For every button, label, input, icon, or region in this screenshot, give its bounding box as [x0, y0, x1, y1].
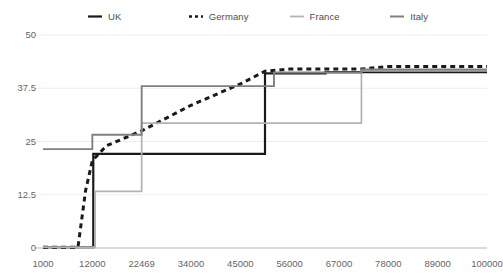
x-tick-label: 78000 — [375, 258, 401, 269]
y-axis: 012.52537.550 — [0, 0, 36, 277]
y-tick-label: 0 — [2, 243, 36, 253]
series-lines — [43, 67, 487, 248]
x-tick-label: 45000 — [227, 258, 253, 269]
y-tick-label: 12.5 — [2, 190, 36, 200]
x-tick-label: 1000 — [32, 258, 53, 269]
y-tick-label: 50 — [2, 30, 36, 40]
y-tick-label: 25 — [2, 137, 36, 147]
x-tick-label: 56000 — [276, 258, 302, 269]
x-axis: 1000120002246934000450005600067000780008… — [0, 256, 491, 274]
x-tick-label: 89000 — [424, 258, 450, 269]
x-tick-label: 100000 — [471, 258, 503, 269]
x-tick-label: 34000 — [178, 258, 204, 269]
x-tick-label: 22469 — [128, 258, 154, 269]
series-line-uk — [43, 72, 487, 247]
x-tick-label: 67000 — [326, 258, 352, 269]
y-tick-label: 37.5 — [2, 83, 36, 93]
x-tick-label: 12000 — [79, 258, 105, 269]
